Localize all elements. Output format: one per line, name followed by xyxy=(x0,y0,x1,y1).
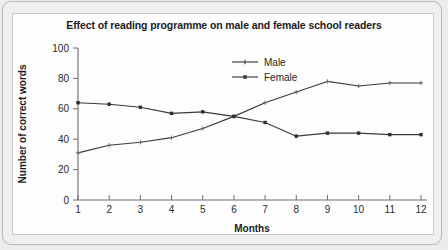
legend-label-female: Female xyxy=(264,72,298,83)
x-tick-label-5: 5 xyxy=(200,204,206,215)
data-point-female-3 xyxy=(139,106,142,109)
y-tick-label-20: 20 xyxy=(58,164,70,175)
y-axis-ticks: 020406080100 xyxy=(52,43,78,206)
data-point-female-9 xyxy=(326,131,329,134)
y-tick-label-60: 60 xyxy=(58,103,70,114)
data-point-female-11 xyxy=(388,133,391,136)
x-tick-label-1: 1 xyxy=(75,204,81,215)
y-tick-label-100: 100 xyxy=(52,43,69,54)
x-tick-label-9: 9 xyxy=(325,204,331,215)
x-tick-label-8: 8 xyxy=(293,204,299,215)
legend-label-male: Male xyxy=(264,57,286,68)
series-line-male xyxy=(78,81,421,152)
data-point-female-6 xyxy=(232,115,235,118)
y-tick-label-40: 40 xyxy=(58,134,70,145)
x-tick-label-7: 7 xyxy=(262,204,268,215)
x-tick-label-6: 6 xyxy=(231,204,237,215)
y-tick-label-80: 80 xyxy=(58,73,70,84)
data-point-female-7 xyxy=(263,121,266,124)
x-tick-label-12: 12 xyxy=(415,204,427,215)
data-point-female-1 xyxy=(76,101,79,104)
data-point-female-4 xyxy=(170,112,173,115)
data-point-female-5 xyxy=(201,110,204,113)
series-line-female xyxy=(78,103,421,136)
x-tick-label-2: 2 xyxy=(106,204,112,215)
x-axis-title: Months xyxy=(234,223,270,234)
data-point-female-12 xyxy=(419,133,422,136)
y-tick-label-0: 0 xyxy=(63,195,69,206)
line-chart-plot: 020406080100 123456789101112 MaleFemale … xyxy=(0,0,448,250)
data-point-female-10 xyxy=(357,131,360,134)
data-point-female-2 xyxy=(107,103,110,106)
data-series-group xyxy=(76,79,423,155)
x-tick-label-10: 10 xyxy=(353,204,365,215)
x-tick-label-4: 4 xyxy=(169,204,175,215)
chart-screenshot: Effect of reading programme on male and … xyxy=(0,0,448,250)
chart-legend: MaleFemale xyxy=(232,57,298,83)
x-tick-label-11: 11 xyxy=(385,204,396,215)
y-axis-title: Number of correct words xyxy=(17,64,28,183)
x-axis-ticks: 123456789101112 xyxy=(75,195,427,215)
legend-marker-female xyxy=(243,75,247,79)
data-point-female-8 xyxy=(295,134,298,137)
x-tick-label-3: 3 xyxy=(138,204,144,215)
